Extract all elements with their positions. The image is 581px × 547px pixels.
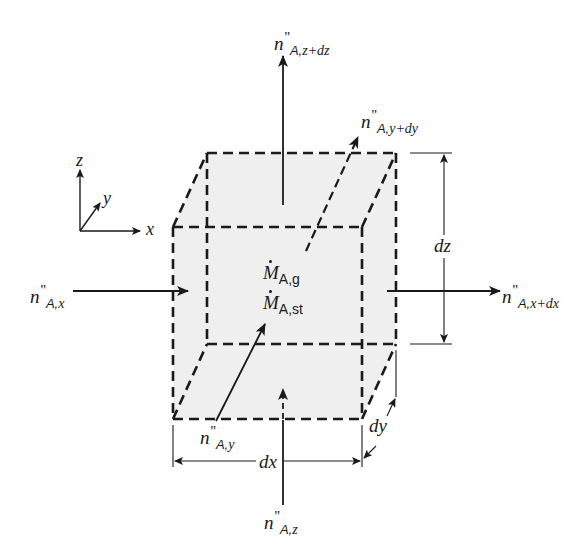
flux-label-in-x: n''A,x [30, 287, 64, 306]
flux-species: A, [216, 437, 228, 452]
flux-species: A, [290, 43, 302, 58]
generation-term: MA,g [263, 263, 300, 282]
flux-symbol: n [264, 512, 274, 533]
flux-symbol: n [502, 286, 512, 307]
flux-species: A, [46, 296, 58, 311]
flux-label-in-y: n''A,y [200, 428, 234, 447]
mass-rate-symbol: M [263, 293, 279, 312]
mass-rate-symbol: M [263, 263, 279, 282]
flux-label-out-x: n''A,x+dx [502, 287, 559, 306]
axis-label-x: x [146, 220, 154, 238]
flux-label-out-z: n''A,z+dz [274, 34, 330, 53]
flux-symbol: n [361, 111, 371, 132]
dimension-label-dy: dy [369, 416, 387, 435]
dimension-label-dz: dz [434, 236, 451, 255]
flux-symbol: n [200, 427, 210, 448]
flux-symbol: n [274, 33, 284, 54]
flux-symbol: n [30, 286, 40, 307]
axis-label-y: y [103, 189, 111, 207]
generation-subscript: A,g [279, 271, 300, 287]
storage-subscript: A,st [279, 301, 303, 317]
flux-coordinate: z+dz [302, 43, 329, 58]
flux-label-out-y: n''A,y+dy [361, 112, 418, 131]
flux-species: A, [518, 296, 530, 311]
control-volume-diagram: z y x dz dx dy n''A,x n''A,x+dx n''A,z+d… [0, 0, 581, 547]
flux-coordinate: z [292, 522, 297, 537]
storage-term: MA,st [263, 293, 303, 312]
axis-label-z: z [76, 151, 83, 169]
flux-species: A, [377, 121, 389, 136]
flux-coordinate: y+dy [389, 121, 418, 136]
flux-coordinate: x+dx [530, 296, 559, 311]
flux-species: A, [280, 522, 292, 537]
dimension-label-dx: dx [259, 452, 277, 471]
flux-coordinate: y [228, 437, 234, 452]
flux-label-in-z: n''A,z [264, 513, 298, 532]
flux-coordinate: x [58, 296, 64, 311]
